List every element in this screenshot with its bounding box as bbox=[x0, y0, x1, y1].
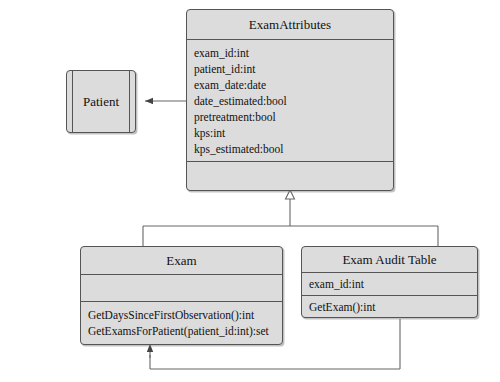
class-attributes-exam bbox=[81, 275, 282, 302]
attribute-row: pretreatment:bool bbox=[194, 109, 386, 125]
attribute-row: exam_date:date bbox=[194, 77, 386, 93]
generalization-to-examattributes bbox=[143, 190, 438, 247]
class-operations-exam-audit-table: GetExam():int bbox=[302, 296, 477, 318]
operation-row: GetExamsForPatient(patient_id:int):set bbox=[88, 323, 275, 339]
class-box-exam-audit-table[interactable]: Exam Audit Table exam_id:int GetExam():i… bbox=[301, 246, 478, 318]
uml-class-diagram-canvas: ExamAttributes exam_id:int patient_id:in… bbox=[0, 0, 500, 382]
attribute-row: patient_id:int bbox=[194, 61, 386, 77]
class-title-exam-audit-table: Exam Audit Table bbox=[302, 247, 477, 273]
attribute-row: exam_id:int bbox=[309, 276, 470, 292]
class-title-exam-attributes: ExamAttributes bbox=[187, 10, 393, 40]
class-box-exam[interactable]: Exam GetDaysSinceFirstObservation():int … bbox=[80, 246, 283, 345]
class-operations-exam-attributes bbox=[187, 162, 393, 192]
class-attributes-exam-audit-table: exam_id:int bbox=[302, 273, 477, 296]
class-attributes-exam-attributes: exam_id:int patient_id:int exam_date:dat… bbox=[187, 40, 393, 162]
operation-row: GetExam():int bbox=[309, 299, 470, 315]
operation-row: GetDaysSinceFirstObservation():int bbox=[88, 307, 275, 323]
attribute-row: kps_estimated:bool bbox=[194, 141, 386, 157]
attribute-row: date_estimated:bool bbox=[194, 93, 386, 109]
class-title-patient: Patient bbox=[67, 71, 135, 132]
attribute-row: kps:int bbox=[194, 125, 386, 141]
class-title-exam: Exam bbox=[81, 247, 282, 275]
class-operations-exam: GetDaysSinceFirstObservation():int GetEx… bbox=[81, 302, 282, 344]
attribute-row: exam_id:int bbox=[194, 45, 386, 61]
class-box-patient[interactable]: Patient bbox=[66, 70, 136, 133]
class-box-exam-attributes[interactable]: ExamAttributes exam_id:int patient_id:in… bbox=[186, 9, 394, 191]
